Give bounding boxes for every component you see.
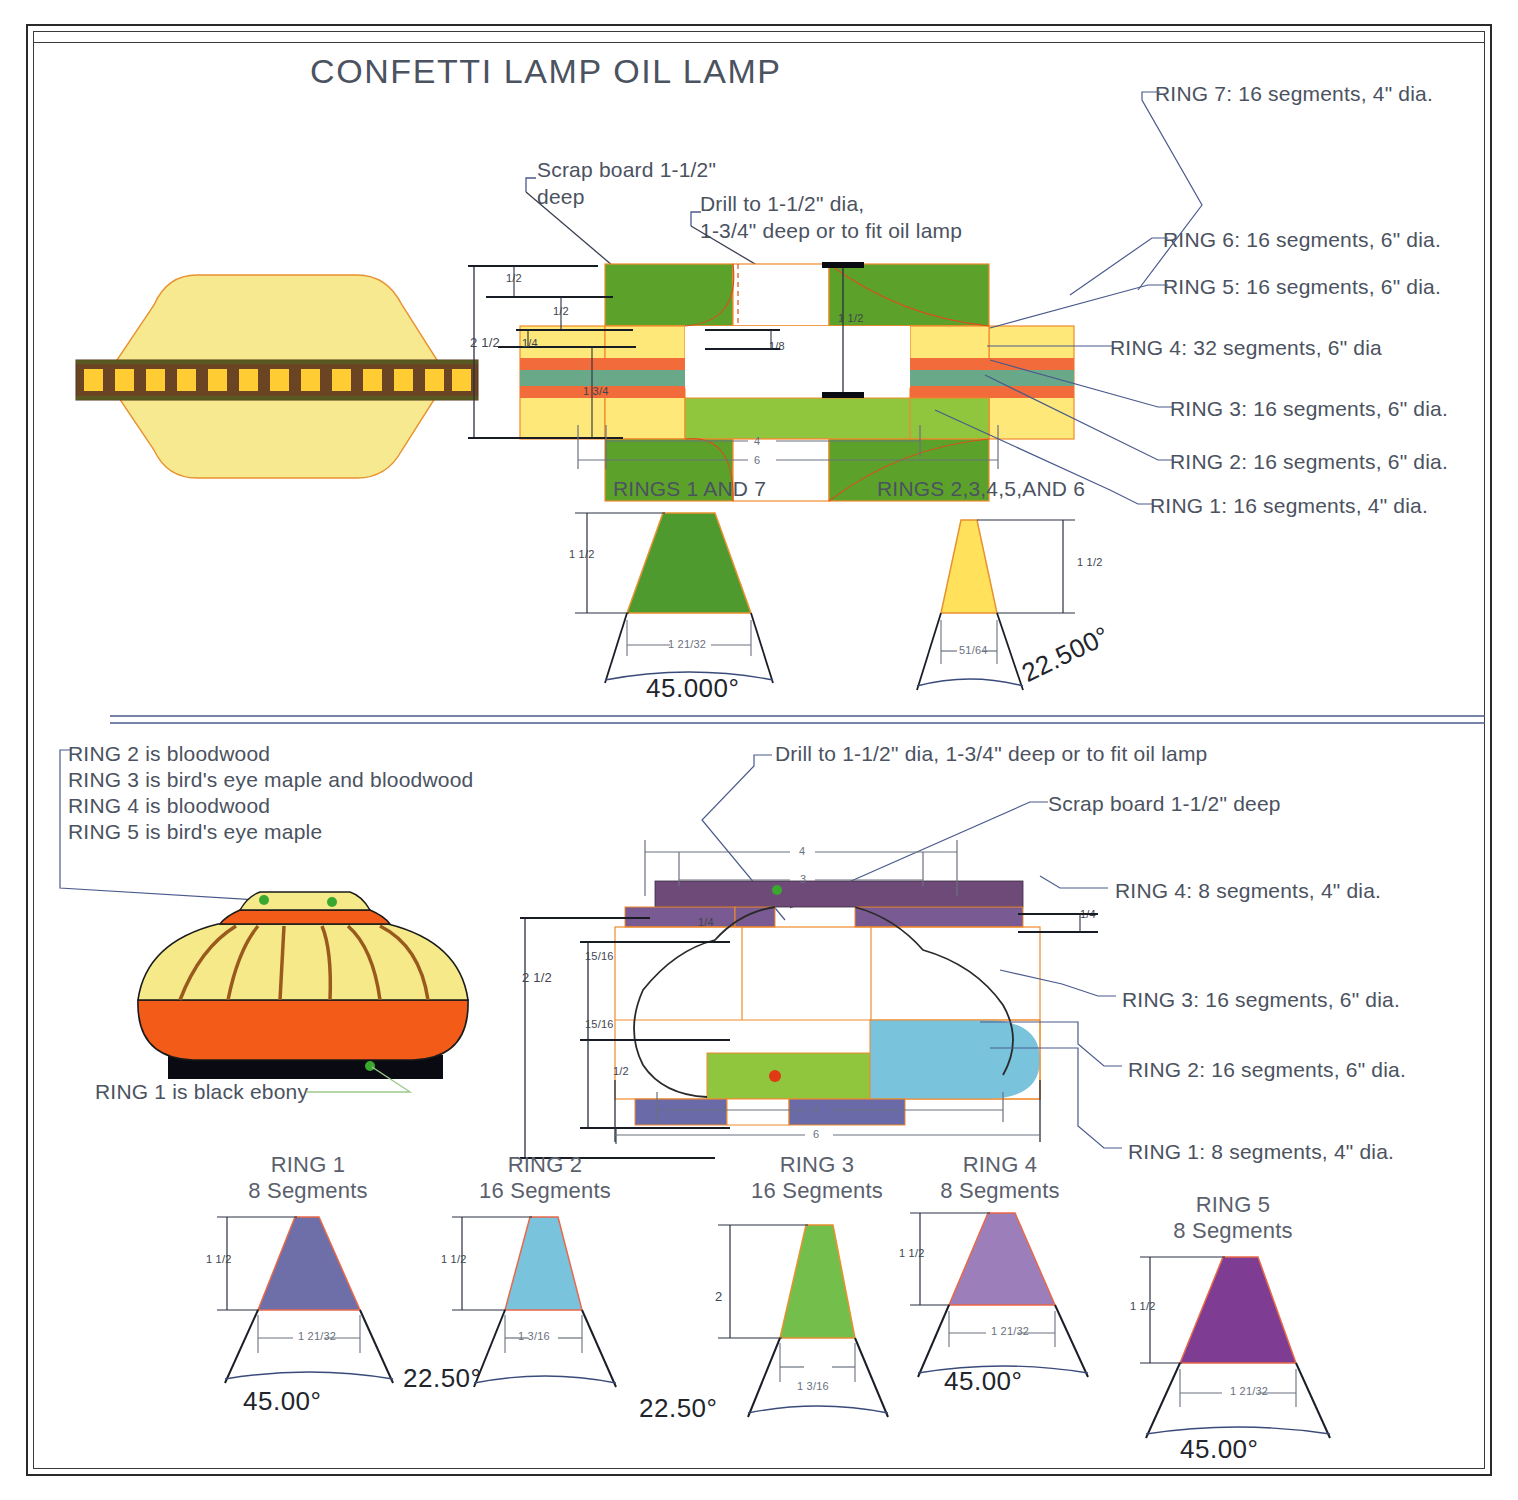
dim-bottom-width-4top: 4	[799, 845, 805, 857]
ring4-figure-segments: 8 Segments	[925, 1178, 1075, 1204]
top-figure-caption-rings17: RINGS 1 AND 7	[613, 477, 766, 501]
ebony-note-leader	[300, 1060, 460, 1110]
dim-top-width-outer: 6	[754, 454, 760, 466]
dim-ring4-width: 1 21/32	[991, 1325, 1029, 1337]
ring4-figure-name: RING 4	[945, 1152, 1055, 1178]
top-figure-caption-rings23456: RINGS 2,3,4,5,AND 6	[877, 477, 1085, 501]
dim-top-d2: 1/2	[553, 305, 569, 317]
ring3-figure-name: RING 3	[762, 1152, 872, 1178]
dim-top-fig1-width: 1 21/32	[668, 638, 706, 650]
confetti-lamp-illustration	[62, 250, 482, 450]
ring3-figure-segments: 16 Segments	[742, 1178, 892, 1204]
dim-top-d4: 1 3/4	[583, 385, 608, 397]
dim-bottom-top-small: 1/4	[698, 916, 714, 928]
dim-bottom-width-inner: 4	[813, 1103, 819, 1115]
dim-top-d3: 1/4	[522, 337, 538, 349]
section-divider	[110, 713, 1510, 729]
dim-top-d6: 1 1/2	[838, 312, 863, 324]
dim-bottom-total-height: 2 1/2	[522, 970, 552, 985]
dim-top-width-inner: 4	[754, 435, 760, 447]
dim-top-fig2-height: 1 1/2	[1077, 556, 1102, 568]
top-inner-dimension	[705, 325, 845, 365]
ebony-note: RING 1 is black ebony	[95, 1080, 308, 1104]
title-rule	[33, 42, 1485, 43]
angle-ring2: 22.50°	[403, 1363, 481, 1394]
dim-ring2-height: 1 1/2	[441, 1253, 466, 1265]
dim-ring5-width: 1 21/32	[1230, 1385, 1268, 1397]
page-title: CONFETTI LAMP OIL LAMP	[310, 52, 782, 91]
dim-bottom-lower: 15/16	[585, 1018, 614, 1030]
top-width-dimensions	[598, 425, 1038, 485]
dim-ring1-width: 1 21/32	[298, 1330, 336, 1342]
drawing-page: CONFETTI LAMP OIL LAMP Scrap board 1-1/2…	[0, 0, 1518, 1500]
ring2-figure-segments: 16 Segments	[470, 1178, 620, 1204]
ring5-figure-segments: 8 Segments	[1158, 1218, 1308, 1244]
dim-ring5-height: 1 1/2	[1130, 1300, 1155, 1312]
ring2-figure-name: RING 2	[490, 1152, 600, 1178]
ring5-figure-name: RING 5	[1178, 1192, 1288, 1218]
angle-ring1: 45.00°	[243, 1386, 321, 1417]
dim-ring2-width: 1 3/16	[518, 1330, 550, 1342]
angle-ring4: 45.00°	[944, 1366, 1022, 1397]
angle-top-fig1: 45.000°	[646, 673, 739, 704]
top-ring-leaders	[1130, 80, 1460, 520]
dim-top-total-height: 2 1/2	[470, 335, 500, 350]
dim-bottom-upper: 15/16	[585, 950, 614, 962]
bottom-right-small-dim	[1018, 908, 1138, 948]
dim-ring3-width: 1 3/16	[797, 1380, 829, 1392]
dim-ring1-height: 1 1/2	[206, 1253, 231, 1265]
dim-top-fig1-height: 1 1/2	[569, 548, 594, 560]
dim-bottom-width-outer: 6	[813, 1128, 819, 1140]
dim-top-d1: 1/2	[506, 272, 522, 284]
dim-top-fig2-width: 51/64	[959, 644, 988, 656]
ring1-figure-segments: 8 Segments	[233, 1178, 383, 1204]
dim-bottom-base: 1/2	[613, 1065, 629, 1077]
ring1-figure-name: RING 1	[253, 1152, 363, 1178]
angle-ring5: 45.00°	[1180, 1434, 1258, 1465]
dim-bottom-width-3: 3	[800, 873, 806, 885]
angle-ring3: 22.50°	[639, 1393, 717, 1424]
dim-ring3-height: 2	[715, 1289, 722, 1304]
dim-ring4-height: 1 1/2	[899, 1247, 924, 1259]
